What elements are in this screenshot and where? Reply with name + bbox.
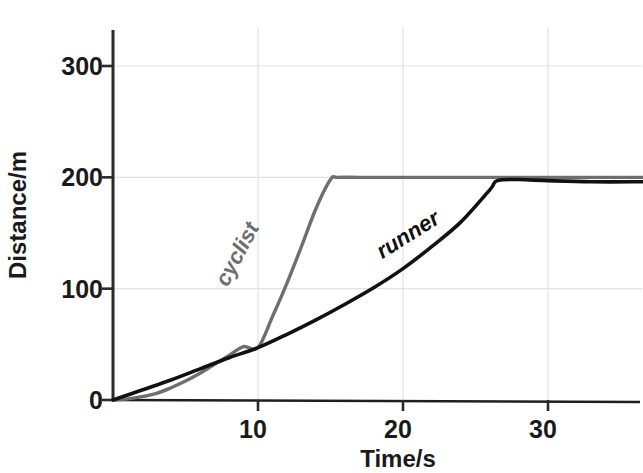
series-label-cyclist: cyclist	[210, 216, 265, 290]
x-tick-label-30: 30	[529, 415, 557, 443]
y-axis-title: Distance/m	[4, 151, 31, 279]
x-tick-label-10: 10	[239, 415, 267, 443]
y-tick-label-300: 300	[61, 52, 103, 80]
series-label-runner: runner	[372, 205, 446, 264]
distance-time-chart: 300 200 100 0 10 20 30 Time/s Distance/m…	[0, 0, 643, 473]
y-tick-label-100: 100	[61, 275, 103, 303]
x-axis-line	[113, 400, 640, 402]
chart-canvas: 300 200 100 0 10 20 30 Time/s Distance/m…	[0, 0, 643, 473]
gridlines	[113, 27, 642, 400]
x-axis-title: Time/s	[360, 445, 436, 472]
tick-marks	[102, 66, 548, 411]
y-tick-label-200: 200	[61, 163, 103, 191]
x-tick-label-20: 20	[384, 415, 412, 443]
y-tick-label-0: 0	[89, 386, 103, 414]
series-line-runner	[113, 179, 642, 400]
